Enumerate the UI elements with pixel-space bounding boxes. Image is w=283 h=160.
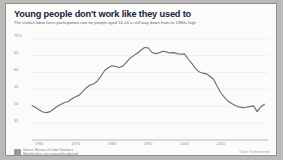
plot-area: 70%6560555045: [14, 28, 270, 142]
publisher-logo-icon: [14, 149, 21, 156]
chart-card: Young people don't work like they used t…: [5, 3, 277, 156]
y-axis-tick-label: 70%: [14, 34, 22, 38]
chart-footer: Source: Bureau of Labor Statistics Month…: [14, 148, 272, 156]
chart-title: Young people don't work like they used t…: [14, 9, 191, 19]
y-axis-tick-label: 55: [14, 85, 18, 89]
data-line: [32, 48, 264, 113]
y-axis-tick-label: 50: [14, 102, 18, 106]
x-axis-tick-label: 1980: [108, 142, 116, 146]
x-axis-tick-label: 1970: [71, 142, 79, 146]
source-note: Source: Bureau of Labor Statistics Month…: [23, 148, 78, 156]
x-axis-tick-label: 2000: [180, 142, 188, 146]
x-axis-tick-label: 1990: [144, 142, 152, 146]
line-chart-svg: [14, 28, 270, 142]
chart-credit: Chart: The Economist: [239, 150, 270, 154]
y-axis-tick-label: 65: [14, 51, 18, 55]
source-line-2: Monthly data, not seasonally adjusted: [23, 152, 78, 156]
x-axis-tick-label: 1960: [35, 142, 43, 146]
y-axis-tick-label: 60: [14, 68, 18, 72]
y-axis-tick-label: 45: [14, 119, 18, 123]
x-axis-tick-label: 2010: [217, 142, 225, 146]
chart-subtitle: The civilian labor force participation r…: [14, 20, 196, 25]
